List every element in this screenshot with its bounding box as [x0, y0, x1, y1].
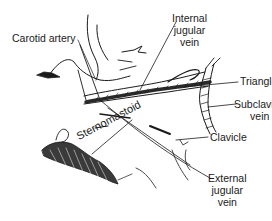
clavicle-line-2: [185, 150, 190, 170]
beard-mass: [42, 142, 118, 184]
label-subclavian-vein: Subclavian vein: [234, 98, 272, 122]
carotid-pointer: [78, 40, 95, 78]
clavicle-pointer: [176, 137, 208, 140]
ear-curl: [56, 129, 69, 142]
muscle-line-2: [150, 126, 170, 134]
clavicle-mark: [180, 140, 188, 145]
label-carotid-artery: Carotid artery: [12, 32, 76, 44]
subclavian-pointer: [208, 104, 236, 107]
label-external-jugular-vein: External jugular vein: [208, 172, 247, 208]
beard-pointer: [118, 174, 132, 180]
jaw-outline-2: [97, 25, 108, 60]
cheek-mark-3: [120, 66, 136, 70]
label-internal-jugular-vein: Internal jugular vein: [172, 12, 207, 48]
sternomastoid-lower: [84, 86, 208, 104]
cheek-mark: [122, 46, 146, 53]
subclavian-vessel-right: [208, 64, 216, 132]
vein-arc: [168, 70, 199, 82]
label-triangle: Triangle: [240, 75, 272, 87]
cheek-mark-2: [118, 60, 132, 62]
shoulder-curve: [136, 168, 156, 188]
label-clavicle: Clavicle: [210, 131, 247, 143]
ear-lobe: [50, 60, 130, 81]
carotid-artery: [80, 45, 100, 100]
hair-tuft: [37, 72, 60, 78]
